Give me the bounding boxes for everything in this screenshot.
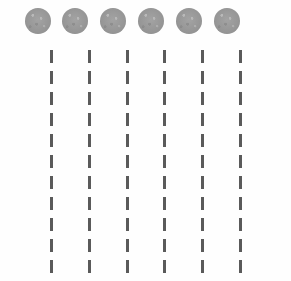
dash-segment	[239, 218, 242, 231]
dash-segment	[239, 260, 242, 273]
dash-segment	[201, 176, 204, 189]
dash-segment	[201, 218, 204, 231]
dash-segment	[163, 218, 166, 231]
dash-segment	[126, 218, 129, 231]
dash-segment	[201, 113, 204, 126]
dash-segment	[239, 155, 242, 168]
dash-segment	[50, 50, 53, 63]
dash-segment	[126, 176, 129, 189]
dash-segment	[239, 197, 242, 210]
dash-segment	[88, 71, 91, 84]
dash-segment	[88, 260, 91, 273]
dash-segment	[239, 134, 242, 147]
dash-segment	[126, 50, 129, 63]
dash-segment	[201, 197, 204, 210]
dash-segment	[239, 92, 242, 105]
dash-segment	[88, 176, 91, 189]
dash-segment	[163, 71, 166, 84]
dash-segment	[50, 113, 53, 126]
dash-segment	[126, 239, 129, 252]
dash-segment	[50, 92, 53, 105]
dash-segment	[239, 50, 242, 63]
dash-segment	[50, 239, 53, 252]
dash-segment	[50, 134, 53, 147]
dash-segment	[126, 260, 129, 273]
dash-segment	[50, 260, 53, 273]
dash-segment	[50, 197, 53, 210]
dash-segment	[88, 197, 91, 210]
dash-segment	[88, 92, 91, 105]
dash-segment	[88, 218, 91, 231]
dash-segment	[239, 176, 242, 189]
dash-segment	[201, 239, 204, 252]
dash-segment	[201, 50, 204, 63]
dash-segment	[88, 134, 91, 147]
dash-segment	[163, 260, 166, 273]
dash-segment	[163, 155, 166, 168]
dash-segment	[126, 155, 129, 168]
dashed-line	[239, 0, 242, 281]
dashed-line	[50, 0, 53, 281]
dash-segment	[126, 197, 129, 210]
dash-segment	[201, 92, 204, 105]
dashed-line	[88, 0, 91, 281]
dash-segment	[163, 113, 166, 126]
dash-segment	[163, 50, 166, 63]
dash-segment	[201, 155, 204, 168]
dash-segment	[50, 176, 53, 189]
dash-segment	[239, 239, 242, 252]
dash-segment	[50, 71, 53, 84]
dashed-line	[163, 0, 166, 281]
dash-segment	[239, 71, 242, 84]
dash-segment	[126, 71, 129, 84]
dash-segment	[201, 260, 204, 273]
dash-segment	[201, 71, 204, 84]
dash-segment	[88, 50, 91, 63]
dash-segment	[126, 134, 129, 147]
dash-segment	[163, 176, 166, 189]
dash-segment	[163, 92, 166, 105]
dash-segment	[163, 134, 166, 147]
dashed-line	[126, 0, 129, 281]
dash-segment	[50, 218, 53, 231]
dash-segment	[88, 155, 91, 168]
dash-segment	[126, 92, 129, 105]
figure-canvas	[0, 0, 291, 281]
dash-segment	[163, 239, 166, 252]
dash-segment	[88, 239, 91, 252]
dash-segment	[126, 113, 129, 126]
dash-segment	[88, 113, 91, 126]
dash-segment	[201, 134, 204, 147]
dashed-line-group	[0, 0, 291, 281]
dash-segment	[239, 113, 242, 126]
dash-segment	[50, 155, 53, 168]
dash-segment	[163, 197, 166, 210]
dashed-line	[201, 0, 204, 281]
